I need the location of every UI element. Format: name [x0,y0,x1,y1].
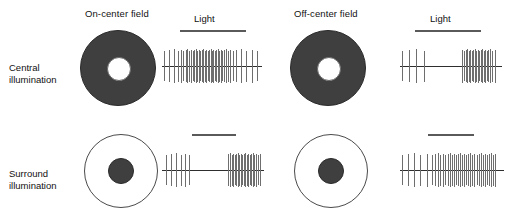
spike-train-off-center-surround [400,148,504,192]
light-bar-off-center-central [415,30,481,32]
spike [485,154,486,187]
row-label-central-line2: illumination [9,74,57,86]
spike [481,153,482,187]
spike [189,51,190,82]
spike [187,49,188,83]
spike [466,155,467,185]
spike [462,155,463,186]
spike [483,155,484,186]
spike [169,50,170,82]
row-label-surround-line1: Surround [9,168,57,180]
spike [432,155,433,185]
spike [460,153,461,187]
spike [414,153,415,187]
spike [454,154,455,187]
spike [495,154,496,187]
row-label-central-line1: Central [9,62,57,74]
spike [488,50,489,82]
spike [183,51,184,81]
light-bar-on-center-surround [192,134,236,136]
spike [164,51,165,81]
spike [474,154,475,187]
spike [257,51,258,81]
spike-train-on-center-central [162,44,262,88]
spike [228,154,229,186]
spike [233,51,234,81]
spike [258,155,259,185]
spike [228,51,229,82]
spike [402,155,403,185]
spike [427,154,428,187]
spike [181,50,182,83]
spike [477,155,478,185]
receptive-field-figure: On-center field Off-center field Central… [0,0,508,224]
spike [260,154,261,186]
receptive-field-off-center-central-center [317,57,341,81]
spike [181,155,182,186]
spike [230,50,231,83]
row-label-central-illumination: Central illumination [9,62,57,85]
spike [470,153,471,187]
spike [256,154,257,187]
spike [495,50,496,83]
spike [246,51,247,82]
spike [445,155,446,185]
light-label-off-center-central: Light [430,13,451,24]
spike [416,49,417,83]
spike [489,154,490,186]
spike [171,154,172,186]
row-label-surround-illumination: Surround illumination [9,168,57,191]
spike [491,153,492,187]
spike [174,49,175,83]
spike [487,155,488,185]
spike [189,155,190,185]
spike [435,154,436,186]
spike-train-off-center-central [400,44,502,88]
column-header-off-center: Off-center field [294,8,358,19]
receptive-field-off-center-surround-center [318,158,344,184]
spike [252,50,253,83]
spike [440,155,441,186]
spike [458,154,459,186]
spike [178,51,179,82]
spike [448,154,449,186]
spike [408,154,409,186]
spike [464,154,465,187]
spike [443,154,444,187]
spike [424,51,425,82]
spike [493,155,494,186]
spike [166,155,167,185]
row-label-surround-line2: illumination [9,180,57,192]
receptive-field-on-center-central-center [107,57,131,81]
spike [450,153,451,187]
light-bar-on-center-central [180,30,246,32]
spike [176,153,177,187]
column-header-on-center: On-center field [85,8,149,19]
spike [492,51,493,82]
spike-train-on-center-surround [162,148,264,192]
spike [420,155,421,186]
spike [409,50,410,82]
spike [472,155,473,186]
spike [468,154,469,186]
spike [479,154,480,186]
spike [226,49,227,83]
spike [452,155,453,186]
light-label-on-center-central: Light [194,13,215,24]
spike [490,49,491,83]
spike [456,155,457,185]
light-bar-off-center-surround [428,134,474,136]
spike [462,50,463,83]
spike [186,50,187,82]
spike [236,50,237,82]
receptive-field-on-center-surround-center [108,158,134,184]
spike [185,154,186,187]
spike [438,153,439,187]
spike [224,50,225,82]
spike [254,155,255,186]
spike [241,49,242,83]
spike [402,51,403,81]
